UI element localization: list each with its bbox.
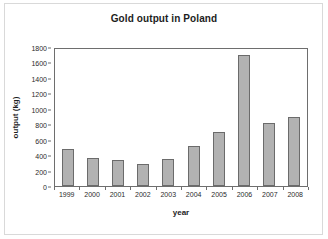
y-tick-label: 1200 — [31, 91, 47, 98]
x-tick-label: 2001 — [105, 191, 129, 198]
bar — [238, 55, 250, 186]
bar — [87, 158, 99, 186]
y-tick-mark — [48, 48, 51, 49]
y-tick-label: 800 — [35, 122, 47, 129]
x-axis-tick-labels: 1999200020012002200320042005200620072008 — [54, 191, 308, 203]
bar — [112, 160, 124, 186]
x-tick-mark — [181, 187, 182, 190]
y-tick-mark — [48, 78, 51, 79]
x-tick-label: 2006 — [232, 191, 256, 198]
y-tick-label: 600 — [35, 137, 47, 144]
bar — [213, 132, 225, 186]
y-tick-mark — [48, 63, 51, 64]
bar — [162, 159, 174, 186]
x-tick-mark — [257, 187, 258, 190]
x-axis-title: year — [54, 208, 308, 217]
bar-series — [55, 49, 307, 186]
bar — [188, 146, 200, 186]
y-tick-label: 1000 — [31, 106, 47, 113]
y-tick-label: 1400 — [31, 75, 47, 82]
x-tick-mark — [206, 187, 207, 190]
x-tick-mark — [54, 187, 55, 190]
y-tick-mark — [48, 140, 51, 141]
x-tick-label: 2005 — [207, 191, 231, 198]
y-tick-label: 0 — [43, 184, 47, 191]
x-tick-label: 1999 — [55, 191, 79, 198]
chart-title: Gold output in Poland — [0, 13, 328, 24]
bar — [263, 123, 275, 186]
y-tick-mark — [48, 187, 51, 188]
y-tick-mark — [48, 171, 51, 172]
y-tick-label: 400 — [35, 153, 47, 160]
x-tick-label: 2008 — [283, 191, 307, 198]
y-tick-label: 200 — [35, 168, 47, 175]
y-axis-tick-labels: 180016001400120010008006004002000 — [20, 48, 51, 187]
y-tick-mark — [48, 125, 51, 126]
x-tick-label: 2002 — [131, 191, 155, 198]
x-tick-mark — [156, 187, 157, 190]
x-tick-mark — [130, 187, 131, 190]
x-tick-label: 2003 — [156, 191, 180, 198]
x-tick-mark — [105, 187, 106, 190]
x-tick-mark — [308, 187, 309, 190]
x-tick-mark — [283, 187, 284, 190]
x-tick-label: 2007 — [258, 191, 282, 198]
bar — [137, 164, 149, 186]
bar — [62, 149, 74, 186]
x-tick-label: 2000 — [80, 191, 104, 198]
y-tick-mark — [48, 156, 51, 157]
x-tick-mark — [79, 187, 80, 190]
plot-area — [54, 48, 308, 187]
x-tick-mark — [232, 187, 233, 190]
y-tick-label: 1600 — [31, 60, 47, 67]
chart-figure: Gold output in Poland output (kg) 180016… — [0, 0, 328, 239]
x-tick-label: 2004 — [182, 191, 206, 198]
y-tick-mark — [48, 109, 51, 110]
y-tick-label: 1800 — [31, 45, 47, 52]
bar — [288, 117, 300, 186]
y-tick-mark — [48, 94, 51, 95]
